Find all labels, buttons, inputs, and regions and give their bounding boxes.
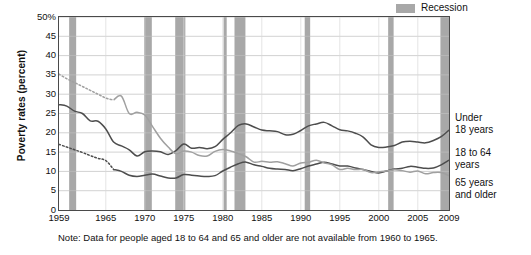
series-label-under-18: Under 18 years [455,112,493,135]
series-label-18-to-64: 18 to 64 years [455,147,491,170]
plot-svg [59,17,449,210]
legend: Recession [396,3,468,13]
y-axis-tick-label: 50% [4,12,56,22]
y-axis-tick-label: 40 [4,50,56,60]
y-axis-tick-label: 20 [4,127,56,137]
x-axis-tick-label: 1965 [86,213,126,223]
x-axis-tick-label: 1980 [203,213,243,223]
series-line-estimated [59,144,114,169]
y-axis-tick-label: 35 [4,69,56,79]
series-label-65-and-older: 65 years and older [455,177,497,200]
x-axis-tick-label: 1959 [39,213,79,223]
recession-swatch-icon [396,4,415,13]
x-axis-tick-label: 2009 [429,213,469,223]
x-axis-tick-label: 1985 [242,213,282,223]
x-axis-tick-labels: 1959196519701975198019851990199520002005… [0,213,531,227]
poverty-rate-chart-figure: Poverty rates (percent) 0510152025303540… [0,0,531,255]
y-axis-tick-label: 45 [4,31,56,41]
y-axis-tick-label: 15 [4,147,56,157]
y-axis-tick-label: 30 [4,89,56,99]
chart-footnote: Note: Data for people aged 18 to 64 and … [58,233,438,243]
x-axis-tick-label: 1975 [164,213,204,223]
x-axis-tick-label: 1995 [320,213,360,223]
series-callout-labels: Under 18 years 18 to 64 years 65 years a… [455,16,531,211]
y-axis-tick-label: 25 [4,108,56,118]
legend-label-recession: Recession [421,3,468,13]
series-line-estimated [59,74,114,100]
x-axis-tick-label: 2000 [359,213,399,223]
y-axis-tick-label: 5 [4,185,56,195]
plot-area [58,16,450,211]
series-line [114,96,449,176]
y-axis-tick-label: 10 [4,166,56,176]
x-axis-tick-label: 1970 [125,213,165,223]
x-axis-tick-label: 1990 [281,213,321,223]
